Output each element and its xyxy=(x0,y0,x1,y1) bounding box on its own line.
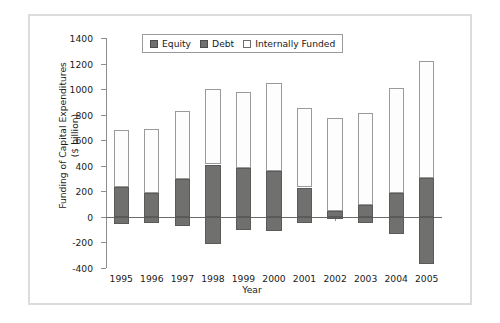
bar-group[interactable] xyxy=(144,38,159,268)
x-axis-tick-label: 1999 xyxy=(232,273,255,284)
x-axis-tick-label: 2000 xyxy=(262,273,285,284)
bar-segment-internally-funded[interactable] xyxy=(297,108,312,188)
x-axis-tick-label: 2005 xyxy=(415,273,438,284)
x-axis-tick-label: 1998 xyxy=(201,273,224,284)
bar-segment-equity[interactable] xyxy=(419,217,434,264)
bar-segment-equity[interactable] xyxy=(297,217,312,223)
legend-item-internally-funded[interactable]: Internally Funded xyxy=(243,38,335,49)
x-axis-tick-label: 2003 xyxy=(354,273,377,284)
bar-segment-internally-funded[interactable] xyxy=(358,113,373,205)
bar-segment-equity[interactable] xyxy=(266,217,281,231)
y-axis-tick-label: 600 xyxy=(75,135,93,146)
bar-segment-internally-funded[interactable] xyxy=(266,83,281,171)
bar-segment-internally-funded[interactable] xyxy=(114,130,129,187)
bar-chart: Funding of Capital Expenditures ($ billi… xyxy=(30,16,474,307)
y-axis-tick: 0 xyxy=(101,217,106,218)
bar-group[interactable] xyxy=(175,38,190,268)
bar-group[interactable] xyxy=(266,38,281,268)
bar-segment-debt[interactable] xyxy=(297,188,312,217)
legend-label-internally-funded: Internally Funded xyxy=(255,38,335,49)
bar-group[interactable] xyxy=(389,38,404,268)
y-axis-tick: 800 xyxy=(101,115,106,116)
bar-segment-internally-funded[interactable] xyxy=(236,92,251,167)
y-axis-tick: 1400 xyxy=(101,38,106,39)
bar-segment-debt[interactable] xyxy=(114,187,129,217)
x-axis-tick-label: 1996 xyxy=(140,273,163,284)
y-axis-tick-label: -400 xyxy=(72,263,93,274)
bar-segment-internally-funded[interactable] xyxy=(144,129,159,193)
legend-swatch-internally-funded-icon xyxy=(243,40,251,48)
y-axis-tick: -400 xyxy=(101,268,106,269)
y-axis-tick-label: 1000 xyxy=(70,84,93,95)
y-axis-tick: 1000 xyxy=(101,89,106,90)
bar-segment-equity[interactable] xyxy=(144,217,159,223)
y-axis-tick: 200 xyxy=(101,191,106,192)
bar-segment-debt[interactable] xyxy=(389,193,404,217)
bar-segment-debt[interactable] xyxy=(266,171,281,217)
chart-legend: Equity Debt Internally Funded xyxy=(142,34,343,53)
bar-segment-debt[interactable] xyxy=(144,193,159,217)
y-axis-tick-label: 1200 xyxy=(70,58,93,69)
bar-segment-debt[interactable] xyxy=(236,168,251,217)
bar-group[interactable] xyxy=(236,38,251,268)
y-axis-tick: -200 xyxy=(101,242,106,243)
y-axis-tick-label: 1400 xyxy=(70,33,93,44)
y-axis-tick-label: 800 xyxy=(75,109,93,120)
y-axis-tick-label: 0 xyxy=(87,211,93,222)
bar-segment-internally-funded[interactable] xyxy=(205,89,220,164)
legend-label-debt: Debt xyxy=(212,38,234,49)
x-axis-tick-label: 2004 xyxy=(384,273,407,284)
legend-label-equity: Equity xyxy=(162,38,191,49)
x-axis-tick-label: 2001 xyxy=(293,273,316,284)
bar-segment-debt[interactable] xyxy=(205,165,220,217)
bar-group[interactable] xyxy=(327,38,342,268)
bar-segment-internally-funded[interactable] xyxy=(389,88,404,192)
y-axis-tick: 600 xyxy=(101,140,106,141)
bar-group[interactable] xyxy=(205,38,220,268)
plot-area: 1400120010008006004002000-200-400 199519… xyxy=(106,38,442,268)
figure-frame: Funding of Capital Expenditures ($ billi… xyxy=(28,14,472,305)
x-axis-tick-label: 1997 xyxy=(171,273,194,284)
bar-group[interactable] xyxy=(358,38,373,268)
bar-segment-equity[interactable] xyxy=(389,217,404,234)
y-axis-tick: 1200 xyxy=(101,64,106,65)
y-axis-tick-label: 200 xyxy=(75,186,93,197)
bar-segment-equity[interactable] xyxy=(327,217,342,220)
bar-segment-debt[interactable] xyxy=(175,179,190,217)
bar-segment-debt[interactable] xyxy=(419,178,434,217)
y-axis-tick: 400 xyxy=(101,166,106,167)
legend-swatch-debt-icon xyxy=(200,40,208,48)
bar-segment-internally-funded[interactable] xyxy=(419,61,434,178)
x-axis-title: Year xyxy=(30,284,474,295)
bar-segment-equity[interactable] xyxy=(205,217,220,244)
legend-item-equity[interactable]: Equity xyxy=(150,38,191,49)
bar-segment-equity[interactable] xyxy=(236,217,251,230)
screenshot-root: Funding of Capital Expenditures ($ billi… xyxy=(0,0,500,323)
bar-segment-debt[interactable] xyxy=(358,205,373,217)
bar-group[interactable] xyxy=(114,38,129,268)
bar-group[interactable] xyxy=(297,38,312,268)
legend-item-debt[interactable]: Debt xyxy=(200,38,234,49)
bar-segment-internally-funded[interactable] xyxy=(175,111,190,178)
x-axis-tick-label: 2002 xyxy=(323,273,346,284)
bar-segment-equity[interactable] xyxy=(114,217,129,224)
y-axis-tick-label: -200 xyxy=(72,237,93,248)
y-axis-line xyxy=(106,38,107,268)
y-axis-tick-label: 400 xyxy=(75,160,93,171)
legend-swatch-equity-icon xyxy=(150,40,158,48)
bar-group[interactable] xyxy=(419,38,434,268)
bar-segment-internally-funded[interactable] xyxy=(327,118,342,211)
bar-segment-equity[interactable] xyxy=(358,217,373,223)
bar-segment-equity[interactable] xyxy=(175,217,190,227)
x-axis-tick-label: 1995 xyxy=(110,273,133,284)
